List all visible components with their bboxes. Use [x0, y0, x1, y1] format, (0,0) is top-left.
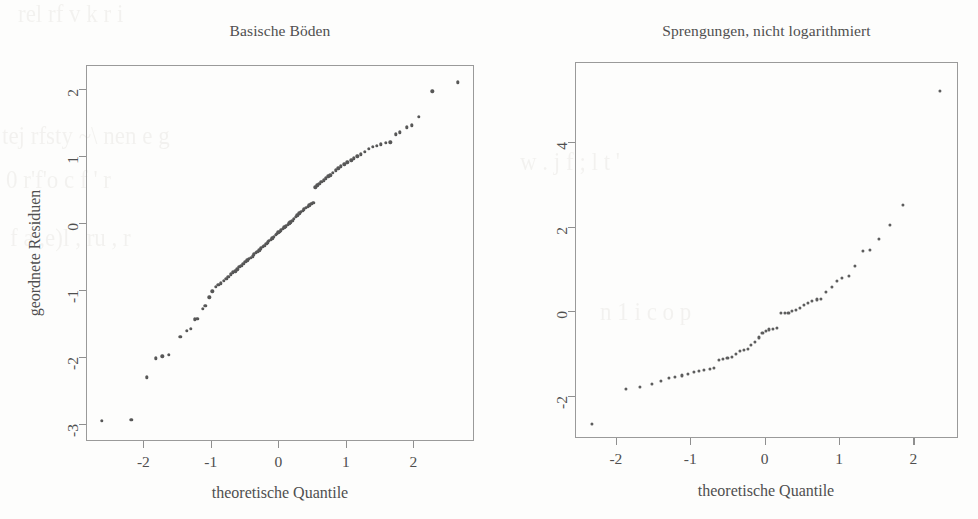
x-tick-label: -2	[609, 450, 622, 468]
plot-frame-right	[575, 62, 958, 438]
x-tick-label: -1	[684, 450, 697, 468]
y-tick-label: 4	[553, 142, 571, 150]
chart-title-right: Sprengungen, nicht logarithmiert	[575, 22, 958, 40]
x-tick-label: -1	[204, 453, 217, 471]
panel-sprengungen: Sprengungen, nicht logarithmiert 420-2-2…	[500, 0, 978, 519]
qq-plot-figure: Basische Böden 210-1-2-3-2-1012 theoreti…	[0, 0, 978, 519]
y-tick-label: 1	[64, 156, 82, 164]
x-tick-label: 2	[409, 453, 417, 471]
x-tick-mark	[839, 438, 840, 445]
x-tick-label: -2	[137, 453, 150, 471]
x-tick-mark	[765, 438, 766, 445]
y-axis-title-left: geordnete Residuen	[26, 190, 44, 317]
y-tick-label: 0	[553, 311, 571, 319]
y-tick-label: 2	[553, 227, 571, 235]
x-tick-mark	[690, 438, 691, 445]
x-tick-label: 1	[342, 453, 350, 471]
x-axis-title-left: theoretische Quantile	[212, 484, 348, 502]
x-tick-mark	[211, 441, 212, 448]
x-tick-label: 0	[274, 453, 282, 471]
x-tick-mark	[413, 441, 414, 448]
y-tick-label: 0	[64, 223, 82, 231]
y-tick-label: 2	[64, 89, 82, 97]
x-tick-mark	[616, 438, 617, 445]
x-tick-mark	[346, 441, 347, 448]
x-tick-label: 1	[835, 450, 843, 468]
y-tick-label: -3	[64, 424, 82, 437]
x-axis-title-right: theoretische Quantile	[698, 482, 834, 500]
x-tick-mark	[143, 441, 144, 448]
y-tick-label: -1	[64, 290, 82, 303]
x-tick-mark	[278, 441, 279, 448]
plot-frame-left	[86, 65, 474, 441]
x-tick-label: 0	[761, 450, 769, 468]
y-tick-label: -2	[64, 357, 82, 370]
chart-title-left: Basische Böden	[86, 22, 474, 40]
panel-basische-boeden: Basische Böden 210-1-2-3-2-1012 theoreti…	[0, 0, 500, 519]
x-tick-mark	[913, 438, 914, 445]
x-tick-label: 2	[910, 450, 918, 468]
y-tick-label: -2	[553, 396, 571, 409]
